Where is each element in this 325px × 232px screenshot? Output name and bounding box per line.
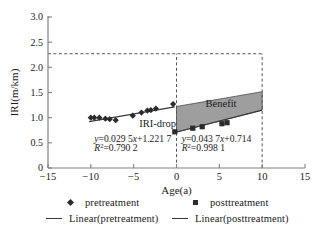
y-axis-title: IRI(m/km) — [8, 68, 21, 116]
data-point-pretreatment — [107, 116, 113, 122]
x-tick-label: 10 — [257, 171, 268, 182]
x-tick-label: 5 — [217, 171, 222, 182]
legend-label-linear-posttreatment: Linear(posttreatment) — [195, 213, 289, 224]
data-point-posttreatment — [219, 121, 224, 126]
data-point-posttreatment — [172, 129, 177, 134]
line-marker-icon — [44, 218, 64, 219]
annotation-iri-drop: IRI-drop — [139, 118, 176, 129]
data-point-posttreatment — [224, 120, 229, 125]
data-point-posttreatment — [190, 126, 195, 131]
legend-item-posttreatment[interactable]: posttreatment — [185, 197, 268, 208]
y-tick-label: 1.5 — [31, 87, 44, 98]
chart-legend: pretreatment posttreatment Linear(pretre… — [0, 194, 325, 232]
x-tick-label: −5 — [128, 171, 139, 182]
legend-row-markers: pretreatment posttreatment — [0, 194, 325, 211]
legend-label-linear-pretreatment: Linear(pretreatment) — [69, 213, 158, 224]
x-tick-label: 0 — [174, 171, 179, 182]
annotation-pre-r2: R2=0.790 2 — [93, 142, 138, 154]
data-point-pretreatment — [170, 101, 176, 107]
diamond-marker-icon — [60, 200, 80, 205]
annotation-post-r2: R2=0.998 1 — [181, 142, 226, 154]
legend-label-posttreatment: posttreatment — [210, 197, 268, 208]
annotation-benefit: Benefit — [206, 98, 237, 109]
y-tick-label: 0.5 — [31, 137, 44, 148]
x-tick-label: −10 — [83, 171, 99, 182]
y-tick-label: 3.0 — [31, 11, 44, 22]
legend-item-pretreatment[interactable]: pretreatment — [60, 197, 139, 208]
y-tick-label: 2.5 — [31, 37, 44, 48]
data-point-pretreatment — [138, 110, 144, 116]
legend-row-lines: Linear(pretreatment) Linear(posttreatmen… — [0, 210, 325, 227]
legend-item-linear-posttreatment[interactable]: Linear(posttreatment) — [170, 213, 289, 224]
square-marker-icon — [185, 200, 205, 205]
line-marker-icon-2 — [170, 218, 190, 219]
y-tick-label: 1.0 — [31, 112, 44, 123]
legend-item-linear-pretreatment[interactable]: Linear(pretreatment) — [44, 213, 158, 224]
legend-label-pretreatment: pretreatment — [85, 197, 139, 208]
data-point-posttreatment — [200, 124, 205, 129]
x-tick-label: −15 — [40, 171, 56, 182]
y-tick-label: 2.0 — [31, 62, 44, 73]
x-tick-label: 15 — [300, 171, 311, 182]
chart-figure: 00.51.01.52.02.53.0−15−10−5051015Age(a)I… — [0, 0, 325, 232]
